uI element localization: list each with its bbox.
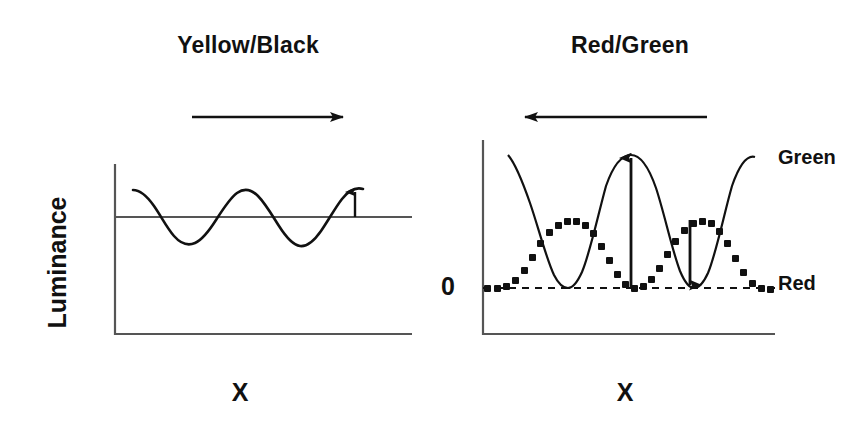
series-curve-red (484, 218, 774, 293)
panel-red-green (483, 117, 775, 334)
axes-right (483, 140, 775, 334)
axes-left (115, 164, 412, 334)
figure-svg (0, 0, 865, 434)
figure-canvas: Yellow/Black Red/Green Luminance X X 0 G… (0, 0, 865, 434)
panel-yellow-black (115, 117, 412, 334)
